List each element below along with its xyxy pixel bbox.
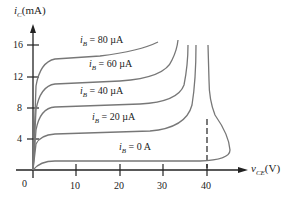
label-ib-0: iB = 0 A (119, 141, 151, 155)
x-tick-10: 10 (70, 180, 80, 191)
label-ib-80: iB = 80 µA (80, 34, 123, 48)
y-tick-4: 4 (17, 133, 22, 144)
label-ib-20: iB = 20 µA (92, 111, 135, 125)
y-tick-16: 16 (13, 39, 23, 50)
x-axis-label: vCE(V) (251, 162, 280, 177)
y-axis-label: iC(mA) (14, 4, 46, 19)
x-tick-30: 30 (157, 180, 167, 191)
x-tick-40: 40 (201, 180, 211, 191)
bjt-characteristics-chart: iC(mA) vCE(V) 16 12 8 4 0 10 20 30 40 iB… (0, 0, 296, 202)
label-ib-60: iB = 60 µA (89, 58, 132, 72)
x-axis-sub: CE (256, 169, 265, 177)
origin-label: 0 (22, 178, 27, 189)
y-tick-8: 8 (17, 102, 22, 113)
y-axis-unit: (mA) (22, 4, 46, 16)
x-axis-arrow-icon (238, 167, 248, 173)
x-axis-unit: (V) (265, 162, 280, 174)
y-tick-12: 12 (13, 71, 23, 82)
label-ib-40: iB = 40 µA (80, 85, 123, 99)
y-axis-arrow-icon (30, 24, 36, 33)
x-tick-20: 20 (114, 180, 124, 191)
